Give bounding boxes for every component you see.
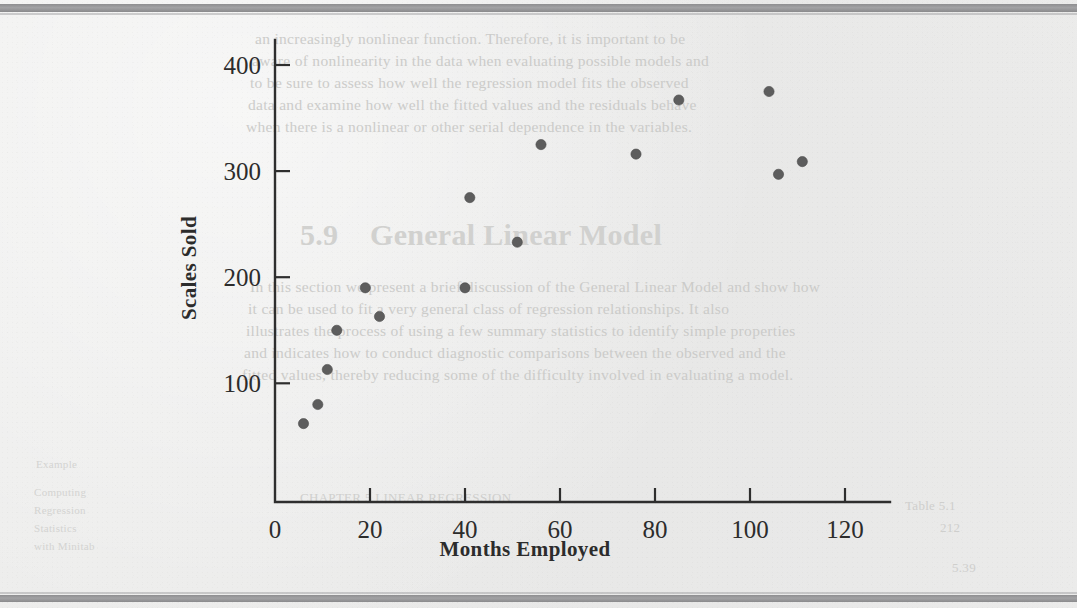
data-point (374, 311, 384, 321)
data-point (460, 283, 470, 293)
data-point (332, 325, 342, 335)
data-points-group (298, 86, 807, 428)
y-axis-tick-marks (275, 65, 290, 383)
x-tick-label: 80 (643, 516, 668, 543)
y-tick-label: 100 (224, 370, 262, 397)
data-point (797, 157, 807, 167)
x-tick-label: 100 (731, 516, 769, 543)
y-axis-tick-labels: 100200300400 (224, 52, 262, 397)
data-point (360, 283, 370, 293)
data-point (764, 86, 774, 96)
data-point (512, 237, 522, 247)
x-axis-title: Months Employed (439, 537, 610, 561)
x-tick-label: 20 (358, 516, 383, 543)
y-tick-label: 200 (224, 264, 262, 291)
scatterplot-figure: 100200300400 020406080100120 Months Empl… (0, 0, 1077, 608)
y-tick-label: 300 (224, 158, 262, 185)
x-axis-tick-marks (370, 488, 845, 502)
y-tick-label: 400 (224, 52, 262, 79)
data-point (536, 140, 546, 150)
scatterplot-svg: 100200300400 020406080100120 Months Empl… (0, 0, 1077, 608)
scanned-page: an increasingly nonlinear function. Ther… (0, 0, 1077, 608)
data-point (465, 193, 475, 203)
data-point (674, 95, 684, 105)
axes-group (275, 40, 890, 502)
data-point (298, 419, 308, 429)
axis-lines (275, 40, 890, 502)
data-point (631, 149, 641, 159)
y-axis-title: Scales Sold (177, 216, 201, 320)
x-tick-label: 120 (826, 516, 864, 543)
x-tick-label: 0 (269, 516, 282, 543)
data-point (322, 364, 332, 374)
data-point (773, 169, 783, 179)
data-point (313, 399, 323, 409)
